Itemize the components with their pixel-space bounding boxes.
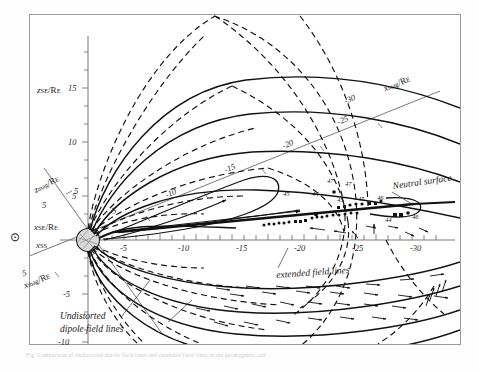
- point-label-44a: 44: [312, 190, 319, 197]
- htick-neg25: -25: [352, 243, 363, 253]
- vtick-neg10: -10: [58, 337, 69, 347]
- point-label-47b: 47: [345, 180, 352, 187]
- point-label-45b: 45: [337, 196, 344, 203]
- mag-axis-lines: [22, 91, 440, 335]
- htick-neg5: -5: [120, 243, 127, 253]
- htick-neg30: -30: [410, 243, 421, 253]
- htick-neg10: -10: [178, 243, 189, 253]
- point-label-46a: 46: [377, 194, 384, 201]
- figure-caption: Fig. Comparison of undistorted dipole fi…: [0, 352, 479, 373]
- point-label-45a: 45: [283, 190, 290, 197]
- undistorted-dipole-annotation-line2: dipole field lines: [60, 324, 123, 334]
- vtick-10: 10: [68, 137, 77, 147]
- vtick-15: 15: [68, 83, 77, 93]
- undistorted-dipole-annotation-line1: Undistorted: [60, 311, 105, 321]
- horizontal-axis-label: xSE/RE: [34, 222, 58, 232]
- point-label-47a: 47: [327, 177, 334, 184]
- vertical-axis-ticks: [82, 52, 88, 342]
- point-label-45c: 45: [358, 195, 365, 202]
- sun-icon: ⊙: [10, 230, 20, 245]
- htick-neg20: -20: [294, 243, 305, 253]
- point-label-44b: 44: [385, 216, 392, 223]
- ztick-pos5-b: 5: [74, 186, 78, 196]
- sun-direction-label: xSS: [36, 240, 47, 250]
- vtick-neg5: -5: [63, 289, 70, 299]
- ztick-pos5-a: 5: [42, 200, 46, 210]
- figure-root: zSE/RE 15 10 5 -5 -10 xSE/RE xSS ⊙ -5 -1…: [0, 0, 479, 373]
- vertical-axis-label: zSE/RE: [37, 85, 61, 95]
- point-label-46b: 46: [412, 213, 419, 220]
- htick-neg15: -15: [236, 243, 247, 253]
